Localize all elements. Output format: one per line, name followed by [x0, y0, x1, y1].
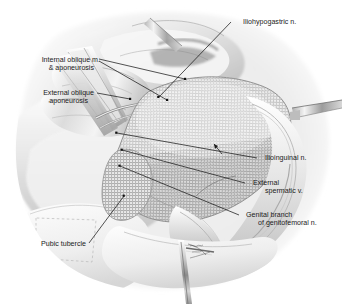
label-genital-branch-line1: Genital branch — [246, 211, 292, 219]
label-external-spermatic: External spermatic v. — [253, 179, 303, 196]
label-pubic-tubercle-line1: Pubic tubercle — [41, 240, 86, 248]
label-external-oblique: External oblique aponeurosis — [6, 89, 94, 106]
illustration-canvas: Internal oblique m. & aponeurosis Extern… — [0, 0, 343, 305]
label-external-spermatic-line2: spermatic v. — [253, 187, 303, 195]
dot-iliohypogastric — [157, 96, 159, 98]
label-external-oblique-line1: External oblique — [43, 89, 94, 97]
label-genital-branch: Genital branch of genitofemoral n. — [246, 211, 317, 228]
dot-internal-oblique-a — [184, 78, 186, 80]
label-internal-oblique-line1: Internal oblique m. — [42, 56, 100, 64]
dot-pubic-tubercle — [123, 195, 125, 197]
label-genital-branch-line2: of genitofemoral n. — [246, 219, 317, 227]
label-pubic-tubercle: Pubic tubercle — [6, 240, 86, 248]
label-external-spermatic-line1: External — [253, 179, 279, 187]
anatomy-artwork — [0, 0, 343, 305]
dot-external-oblique — [129, 98, 131, 100]
dot-internal-oblique-b — [166, 99, 168, 101]
dot-genital-branch — [118, 165, 120, 167]
label-ilioinguinal: Ilioinguinal n. — [265, 154, 306, 162]
label-ilioinguinal-line1: Ilioinguinal n. — [265, 154, 306, 162]
label-internal-oblique-line2: & aponeurosis — [6, 64, 100, 72]
dot-ilioinguinal — [115, 132, 117, 134]
label-internal-oblique: Internal oblique m. & aponeurosis — [6, 56, 100, 73]
label-external-oblique-line2: aponeurosis — [6, 97, 94, 105]
label-iliohypogastric-line1: Iliohypogastric n. — [243, 18, 296, 26]
label-iliohypogastric: Iliohypogastric n. — [243, 18, 296, 26]
dot-external-spermatic — [121, 149, 123, 151]
